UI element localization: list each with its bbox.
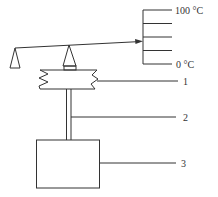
pivot-block xyxy=(64,66,76,70)
pointer-arrowhead-icon xyxy=(135,39,143,44)
bellows-right-fold xyxy=(91,70,98,89)
left-pivot-support xyxy=(10,48,20,68)
pointer-lever xyxy=(15,39,143,48)
scale-label-min: 0 °C xyxy=(176,59,194,70)
diagram-canvas: 100 °C 0 °C 1 2 3 xyxy=(0,0,218,197)
bellows-left-fold xyxy=(39,70,48,89)
center-pivot-triangle xyxy=(63,45,76,66)
bellows xyxy=(39,70,98,89)
bulb-box xyxy=(37,140,100,188)
center-pivot xyxy=(63,45,76,70)
callouts: 1 2 3 xyxy=(71,76,188,169)
temperature-scale: 100 °C 0 °C xyxy=(143,5,203,70)
pointer-arm xyxy=(15,42,141,49)
scale-label-max: 100 °C xyxy=(175,5,203,16)
callout-label-3: 3 xyxy=(181,158,186,169)
callout-label-2: 2 xyxy=(183,112,188,123)
callout-label-1: 1 xyxy=(183,76,188,87)
capillary-tube xyxy=(67,89,72,140)
